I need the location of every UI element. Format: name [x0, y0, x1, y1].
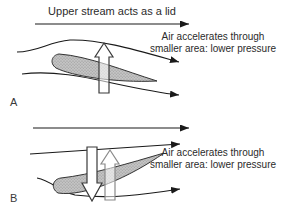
panel-a-label: A: [10, 96, 18, 108]
upper-streamline-b: [30, 144, 180, 154]
panel-a: Upper stream acts as a lid Air accelerat…: [10, 5, 277, 108]
lid-caption: Upper stream acts as a lid: [48, 5, 176, 17]
annotation-a-line2: smaller area: lower pressure: [150, 43, 277, 54]
annotation-b-line1: Air accelerates through: [162, 147, 265, 158]
panel-b: Air accelerates through smaller area: lo…: [10, 128, 277, 204]
annotation-a-line1: Air accelerates through: [162, 31, 265, 42]
annotation-b-line2: smaller area: lower pressure: [150, 159, 277, 170]
airfoil-pressure-diagram: Upper stream acts as a lid Air accelerat…: [0, 0, 287, 214]
diagram-canvas: Upper stream acts as a lid Air accelerat…: [0, 0, 287, 214]
panel-b-label: B: [10, 192, 17, 204]
